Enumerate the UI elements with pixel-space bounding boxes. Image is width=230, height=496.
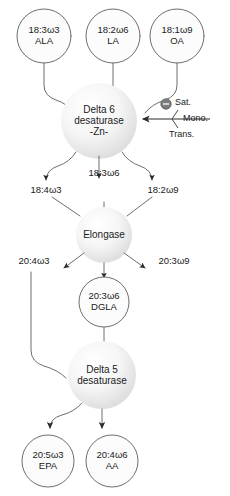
substrate-circle-oa <box>150 9 204 63</box>
pathway-graphics <box>0 0 230 496</box>
connector-18-2w9-to-elongase <box>127 197 152 216</box>
product-circle-epa <box>22 435 74 487</box>
enzyme-sphere-elongase <box>76 207 132 263</box>
enzyme-sphere-delta6 <box>61 83 137 159</box>
arrow-elongase-to-20-4w3 <box>64 253 84 268</box>
product-circle-aa <box>86 435 138 487</box>
enzyme-sphere-delta5 <box>68 341 136 409</box>
substrate-circle-la <box>86 9 140 63</box>
arrow-delta5-to-epa <box>50 403 82 428</box>
pathway-diagram: 18:3ω3 ALA 18:2ω6 LA 18:1ω9 OA Delta 6 d… <box>0 0 230 496</box>
metabolite-circle-dgla <box>79 277 129 327</box>
substrate-circle-ala <box>17 9 71 63</box>
arrow-delta6-to-18-2w9 <box>122 152 152 180</box>
arrow-delta6-to-18-4w3 <box>46 152 76 180</box>
connector-18-4w3-to-elongase <box>52 197 80 216</box>
connector-20-4w3-to-delta5 <box>31 272 66 378</box>
inhibition-group <box>143 99 210 128</box>
arrow-elongase-to-20-3w9 <box>124 253 145 268</box>
